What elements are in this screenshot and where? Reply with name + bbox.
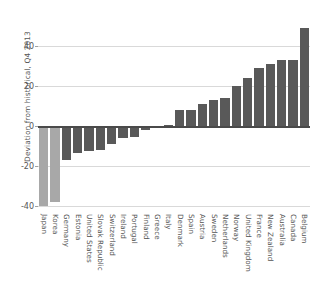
bar-slot (219, 22, 230, 210)
y-axis-title: Deviation from historical, Q4 2013 (23, 12, 32, 182)
bar (232, 86, 242, 126)
y-axis-tick-label: 0 (29, 126, 34, 127)
x-axis-tick-label: Italy (165, 214, 172, 230)
x-label-slot: United Kingdom (242, 212, 253, 302)
x-label-slot: Canada (287, 212, 298, 302)
x-label-slot: Japan (38, 212, 49, 302)
y-axis-tick-label: 40 (24, 46, 34, 47)
bar (209, 100, 219, 126)
x-axis-tick-label: Switzerland (108, 214, 115, 256)
bar-slot (185, 22, 196, 210)
x-axis-tick-label: Spain (187, 214, 194, 234)
x-label-slot: France (253, 212, 264, 302)
bar (62, 126, 72, 160)
x-label-slot: Finland (140, 212, 151, 302)
x-label-slot: Germany (61, 212, 72, 302)
x-axis-tick-label: Korea (51, 214, 58, 234)
bar-slot (299, 22, 310, 210)
bar (39, 126, 49, 206)
x-axis-tick-label: Greece (153, 214, 160, 240)
bar-slot (129, 22, 140, 210)
x-label-slot: Slovak Republic (95, 212, 106, 302)
bar (288, 60, 298, 126)
x-axis-tick-label: United Kingdom (244, 214, 251, 272)
bar-series (38, 22, 310, 210)
x-label-slot: Norway (231, 212, 242, 302)
bar-slot (151, 22, 162, 210)
y-axis-tick-label: -40 (21, 206, 34, 207)
bar-slot (276, 22, 287, 210)
bar-chart-figure: Deviation from historical, Q4 2013 40200… (0, 0, 313, 303)
bar (107, 126, 117, 144)
x-label-slot: United States (83, 212, 94, 302)
bar (96, 126, 106, 150)
plot-area: 40200-20-40 (38, 22, 310, 210)
x-label-slot: Austria (197, 212, 208, 302)
bar-slot (117, 22, 128, 210)
bar (84, 126, 94, 151)
x-label-slot: Spain (185, 212, 196, 302)
x-label-slot: Australia (276, 212, 287, 302)
bar (50, 126, 60, 202)
x-axis-tick-label: Denmark (176, 214, 183, 247)
x-axis-tick-label: Australia (278, 214, 285, 246)
bar (277, 60, 287, 126)
bar-slot (253, 22, 264, 210)
bar-slot (72, 22, 83, 210)
x-axis-tick-label: Ireland (119, 214, 126, 239)
zero-axis-line (38, 126, 310, 128)
bar (175, 110, 185, 126)
x-axis-tick-label: Finland (142, 214, 149, 240)
bar-slot (197, 22, 208, 210)
x-axis-tick-label: Japan (40, 214, 47, 234)
x-axis-tick-label: Slovak Republic (97, 214, 104, 271)
x-axis-tick-label: Germany (63, 214, 70, 247)
x-label-slot: Switzerland (106, 212, 117, 302)
x-axis-tick-label: Canada (289, 214, 296, 241)
x-axis-tick-label: Norway (233, 214, 240, 241)
bar-slot (242, 22, 253, 210)
x-label-slot: Portugal (129, 212, 140, 302)
x-label-slot: Italy (163, 212, 174, 302)
x-axis-tick-label: Austria (199, 214, 206, 239)
x-label-slot: Denmark (174, 212, 185, 302)
bar-slot (287, 22, 298, 210)
x-label-slot: Belgium (299, 212, 310, 302)
x-label-slot: Estonia (72, 212, 83, 302)
x-axis-tick-label: Netherlands (221, 214, 228, 258)
x-label-slot: Sweden (208, 212, 219, 302)
bar-slot (38, 22, 49, 210)
bar (186, 110, 196, 126)
bar (130, 126, 140, 137)
bar (243, 78, 253, 126)
bar (118, 126, 128, 138)
x-axis-tick-labels: JapanKoreaGermanyEstoniaUnited StatesSlo… (38, 212, 310, 302)
bar (198, 104, 208, 126)
bar-slot (163, 22, 174, 210)
x-axis-tick-label: Sweden (210, 214, 217, 242)
x-label-slot: Korea (49, 212, 60, 302)
x-axis-tick-label: Estonia (74, 214, 81, 240)
x-label-slot: New Zealand (265, 212, 276, 302)
bar (266, 64, 276, 126)
bar-slot (83, 22, 94, 210)
bar (300, 28, 310, 126)
bar-slot (208, 22, 219, 210)
bar (220, 98, 230, 126)
y-axis-tick-label: 20 (24, 86, 34, 87)
bar-slot (174, 22, 185, 210)
x-axis-tick-label: France (255, 214, 262, 238)
x-axis-tick-label: New Zealand (267, 214, 274, 261)
bar-slot (106, 22, 117, 210)
x-axis-tick-label: United States (85, 214, 92, 263)
y-axis-tick-label: -20 (21, 166, 34, 167)
bar-slot (95, 22, 106, 210)
x-axis-tick-label: Belgium (301, 214, 308, 243)
bar-slot (61, 22, 72, 210)
x-label-slot: Greece (151, 212, 162, 302)
bar-slot (49, 22, 60, 210)
x-label-slot: Netherlands (219, 212, 230, 302)
bar-slot (265, 22, 276, 210)
x-axis-tick-label: Portugal (131, 214, 138, 244)
bar-slot (140, 22, 151, 210)
